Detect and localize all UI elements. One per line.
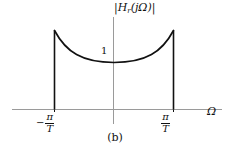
figure-caption: (b) — [0, 132, 230, 143]
figure-container: |̃Hr(jΩ)| Ω 1 − π T π T (b) — [0, 0, 230, 155]
y-axis-label-symbol-group: ̃H — [118, 2, 128, 13]
fraction-numerator: π — [46, 112, 55, 122]
fraction-numerator: π — [161, 112, 170, 122]
x-tick-label-pos-pi-over-T: π T — [161, 112, 170, 134]
y-axis-label: |̃Hr(jΩ)| — [114, 2, 156, 15]
x-axis-label: Ω — [207, 106, 216, 117]
unity-level-label: 1 — [101, 46, 107, 56]
minus-sign: − — [36, 118, 44, 129]
fraction-pi-over-T: π T — [161, 112, 170, 134]
x-tick-label-neg-pi-over-T: − π T — [36, 112, 54, 134]
tilde-accent: ̃ — [118, 0, 128, 5]
fraction-pi-over-T: π T — [45, 112, 54, 134]
y-axis-label-close-bar: | — [152, 1, 156, 14]
y-axis-label-argument: (jΩ) — [131, 1, 152, 14]
